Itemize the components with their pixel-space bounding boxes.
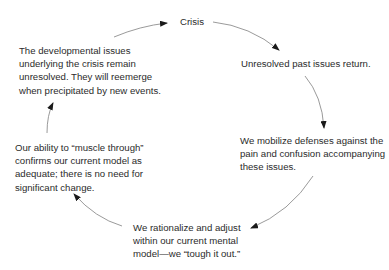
arrow-mobilize-to-rationalize [251, 176, 313, 228]
arrow-rationalize-to-muscle [74, 194, 122, 226]
node-developmental-issues: The developmental issues underlying the … [19, 44, 161, 97]
node-mobilize-defenses: We mobilize defenses against the pain an… [240, 134, 385, 174]
node-muscle-through: Our ability to “muscle through” confirms… [15, 141, 144, 194]
arrow-developmental-to-crisis [114, 23, 167, 37]
arrow-unresolved-to-mobilize [305, 76, 324, 128]
node-unresolved-issues: Unresolved past issues return. [241, 57, 371, 70]
node-crisis: Crisis [180, 15, 204, 28]
arrow-crisis-to-unresolved [213, 22, 279, 50]
arrow-muscle-to-developmental [47, 103, 53, 133]
node-rationalize: We rationalize and adjust within our cur… [133, 221, 241, 261]
